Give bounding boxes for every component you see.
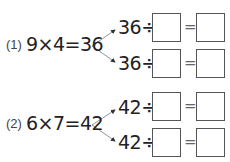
equals-sign: = — [184, 54, 197, 72]
quotient-answer-box[interactable] — [196, 13, 225, 42]
equals-sign: = — [184, 133, 197, 151]
problem-label: (2) — [6, 116, 22, 131]
multiplication-equation: 9×4=36 — [26, 33, 103, 55]
division-dividend: 42÷ — [118, 96, 157, 118]
quotient-answer-box[interactable] — [196, 92, 225, 121]
problem-label: (1) — [6, 37, 22, 52]
equals-sign: = — [184, 18, 197, 36]
multiplication-equation: 6×7=42 — [26, 112, 103, 134]
quotient-answer-box[interactable] — [196, 128, 225, 157]
divisor-answer-box[interactable] — [152, 13, 181, 42]
division-dividend: 36÷ — [118, 52, 157, 74]
quotient-answer-box[interactable] — [196, 49, 225, 78]
division-dividend: 42÷ — [118, 131, 157, 153]
divisor-answer-box[interactable] — [152, 49, 181, 78]
divisor-answer-box[interactable] — [152, 92, 181, 121]
equals-sign: = — [184, 97, 197, 115]
division-dividend: 36÷ — [118, 16, 157, 38]
divisor-answer-box[interactable] — [152, 128, 181, 157]
